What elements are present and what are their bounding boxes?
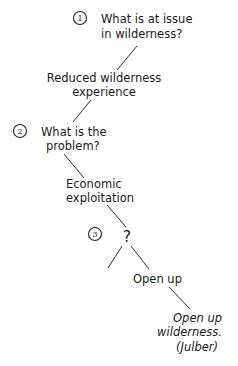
question-2-line-2: problem? [46,139,100,153]
conclusion-line-2: wilderness. [157,325,222,339]
step-number: 3 [92,230,97,239]
connector-line [64,154,84,178]
answer-2-line-2: exploitation [66,191,134,205]
question-3-mark: ? [123,227,132,246]
step-3: 3 ? [89,227,132,246]
connector-line [73,100,91,122]
question-1-line-1: What is at issue [101,12,192,26]
question-2-line-1: What is the [41,125,107,139]
branch-left-line [108,246,122,268]
branch-right-label: Open up [133,272,182,286]
conclusion: Open up wilderness. (Julber) [157,311,222,354]
answer-2: Economic exploitation [66,177,134,205]
branch-right-line [131,246,149,269]
connector-line [117,46,137,70]
step-number: 2 [17,127,22,136]
answer-2-line-1: Economic [66,177,122,191]
answer-1: Reduced wilderness experience [47,71,162,99]
argument-tree-diagram: 1 What is at issue in wilderness? Reduce… [0,0,238,366]
step-1: 1 What is at issue in wilderness? [74,12,193,42]
conclusion-line-1: Open up [173,311,222,325]
question-1-line-2: in wilderness? [101,27,182,41]
answer-1-line-1: Reduced wilderness [47,71,162,85]
connector-line [107,205,126,227]
connector-line [169,287,190,309]
conclusion-line-3: (Julber) [176,340,218,354]
step-2: 2 What is the problem? [14,125,107,154]
answer-1-line-2: experience [72,85,136,99]
step-number: 1 [77,14,82,23]
